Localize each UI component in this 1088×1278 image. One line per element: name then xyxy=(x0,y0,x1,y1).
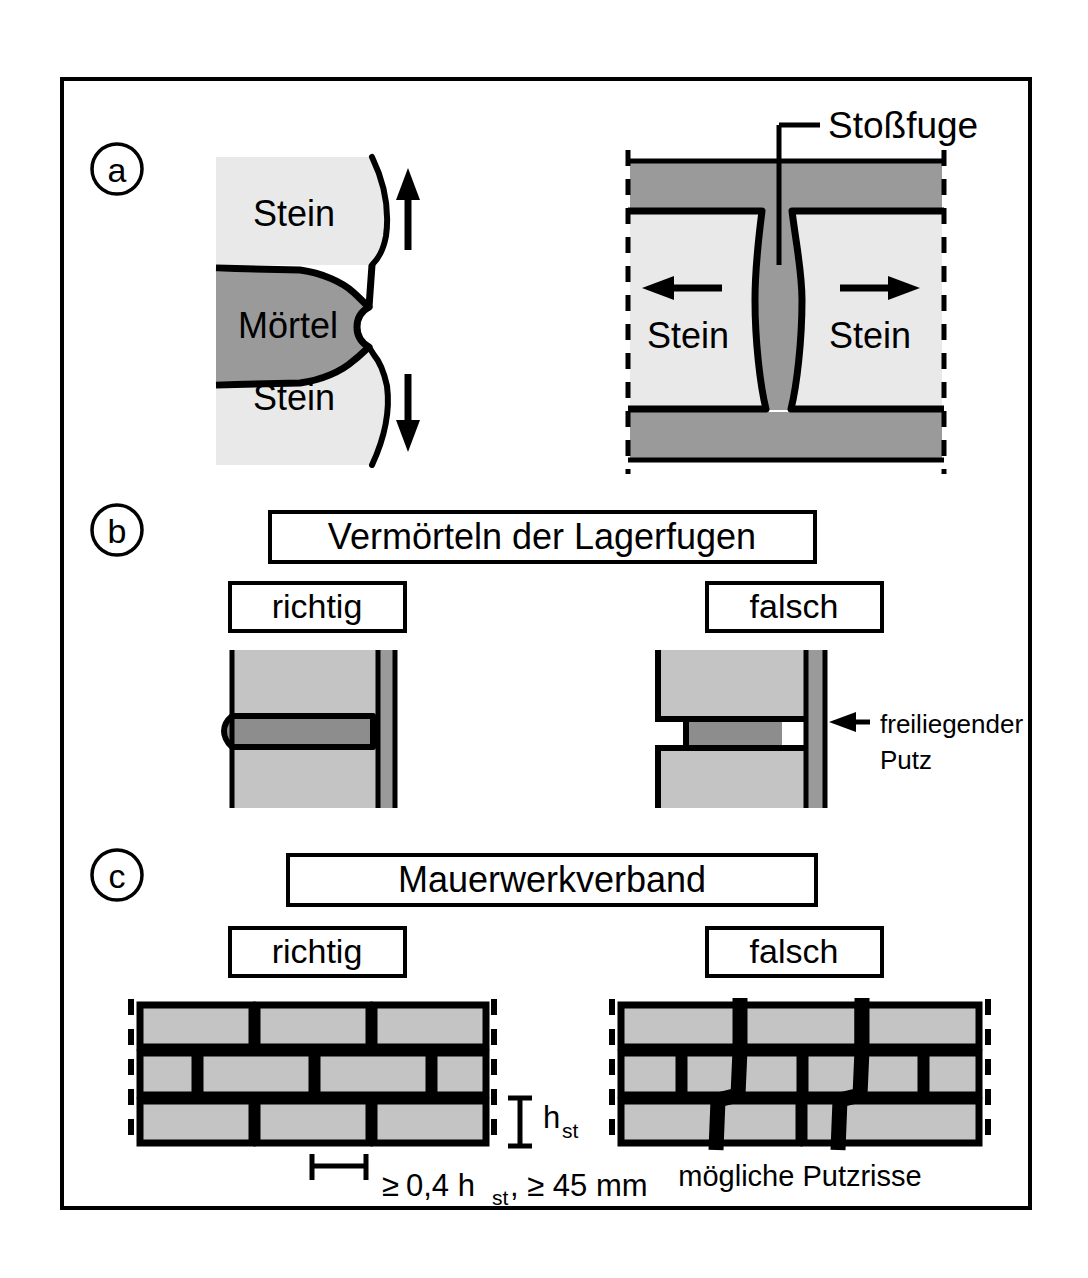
bond-wrong-row-3 xyxy=(621,1101,979,1143)
stone-left-fill xyxy=(630,212,766,408)
caption-c-falsch-text: falsch xyxy=(750,932,839,970)
brick xyxy=(374,1005,486,1047)
label-stein-top: Stein xyxy=(253,193,335,234)
brick xyxy=(863,1005,979,1047)
stone-right-fill xyxy=(790,212,942,408)
caption-c-falsch: falsch xyxy=(707,928,882,976)
dimension-overlap-value: 0,4 h xyxy=(406,1168,475,1203)
bed-joint-correct xyxy=(224,650,395,808)
wrong-stone-lower xyxy=(658,748,806,808)
caption-b-richtig: richtig xyxy=(230,583,405,631)
section-marker-b-label: b xyxy=(108,512,127,550)
label-stein-left: Stein xyxy=(647,315,729,356)
section-b-heading: Vermörteln der Lagerfugen xyxy=(270,512,815,562)
brick xyxy=(621,1005,737,1047)
section-c-heading: Mauerwerkverband xyxy=(288,855,816,905)
label-stossfuge: Stoßfuge xyxy=(828,105,978,146)
brick xyxy=(140,1053,195,1095)
wrong-mortar-joint xyxy=(686,719,782,748)
brick xyxy=(434,1053,486,1095)
caption-c-richtig: richtig xyxy=(230,928,405,976)
bond-wrong-row-2 xyxy=(621,1053,979,1095)
annotation-moegliche-putzrisse: mögliche Putzrisse xyxy=(678,1160,921,1192)
section-b-heading-text: Vermörteln der Lagerfugen xyxy=(328,516,756,557)
wrong-void-gap xyxy=(782,719,806,748)
wrong-stone-upper xyxy=(658,650,806,719)
section-marker-c: c xyxy=(92,850,142,900)
bond-correct-row-2 xyxy=(140,1053,486,1095)
label-stein-right: Stein xyxy=(829,315,911,356)
figure-root: a Stein Mörtel Stein xyxy=(0,0,1088,1278)
brick xyxy=(742,1005,858,1047)
dimension-overlap-tail: , ≥ 45 mm xyxy=(510,1168,648,1203)
brick xyxy=(140,1101,252,1143)
annotation-freiliegender: freiliegender xyxy=(880,709,1023,739)
label-stein-bottom: Stein xyxy=(253,377,335,418)
brick xyxy=(140,1005,252,1047)
section-c-heading-text: Mauerwerkverband xyxy=(398,859,706,900)
annotation-putz: Putz xyxy=(880,745,932,775)
caption-b-richtig-text: richtig xyxy=(272,587,363,625)
caption-b-falsch: falsch xyxy=(707,583,882,631)
brick xyxy=(257,1005,369,1047)
brick xyxy=(317,1053,429,1095)
diagram-canvas: a Stein Mörtel Stein xyxy=(0,0,1088,1278)
caption-c-richtig-text: richtig xyxy=(272,932,363,970)
dimension-overlap-text: ≥ 0,4 h st , ≥ 45 mm xyxy=(382,1168,648,1209)
brick xyxy=(374,1101,486,1143)
dimension-hst-label: h xyxy=(543,1100,560,1135)
brick xyxy=(200,1053,312,1095)
caption-b-falsch-text: falsch xyxy=(750,587,839,625)
bond-correct-row-1 xyxy=(140,1005,486,1047)
brick xyxy=(621,1053,679,1095)
label-moertel: Mörtel xyxy=(238,305,338,346)
head-joint-cross-section: Stoßfuge Stein Stein xyxy=(628,105,978,474)
dimension-overlap-sub: st xyxy=(492,1186,509,1209)
dimension-overlap-prefix: ≥ xyxy=(382,1168,399,1203)
brick xyxy=(926,1053,979,1095)
wrong-render-layer xyxy=(806,650,824,808)
section-marker-b: b xyxy=(92,505,142,555)
mortar-band-bottom xyxy=(630,412,942,462)
bond-wrong-row-1 xyxy=(621,1005,979,1047)
bond-correct-row-3 xyxy=(140,1101,486,1143)
dimension-hst-sub: st xyxy=(562,1119,579,1142)
brick xyxy=(257,1101,369,1143)
section-marker-a: a xyxy=(92,144,142,194)
correct-mortar-joint xyxy=(224,716,373,747)
section-marker-c-label: c xyxy=(109,857,126,895)
section-marker-a-label: a xyxy=(108,151,127,189)
brick xyxy=(804,1101,979,1143)
